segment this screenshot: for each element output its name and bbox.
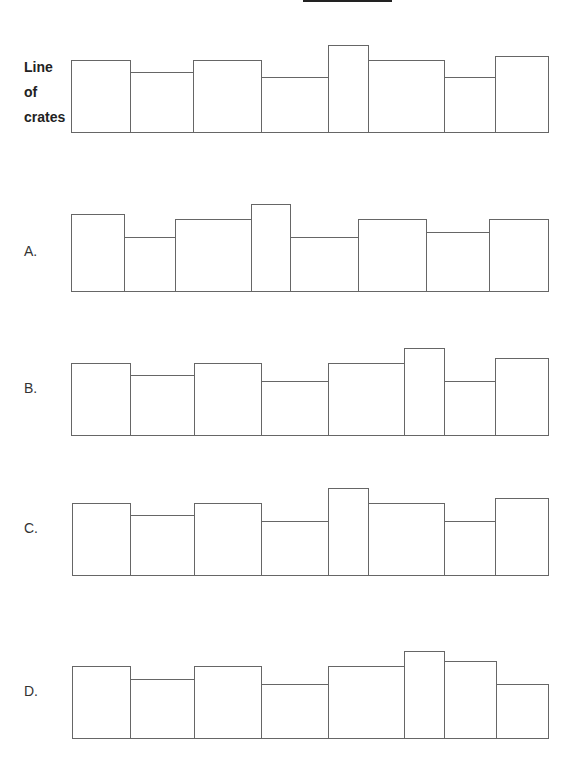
crate [328, 666, 405, 739]
crate [71, 60, 131, 133]
label-line-3: crates [24, 105, 65, 130]
crate [444, 381, 496, 436]
crate [495, 358, 549, 436]
crate [261, 521, 329, 576]
label-line-1: Line [24, 55, 65, 80]
crate [328, 45, 369, 133]
crate [444, 661, 497, 739]
crate [261, 77, 329, 133]
crate [328, 488, 369, 576]
crate [444, 77, 496, 133]
crate [426, 232, 490, 292]
crate [71, 363, 131, 436]
crate [124, 237, 176, 292]
crate [496, 684, 549, 739]
crate [130, 72, 194, 133]
crate [495, 56, 549, 133]
crate [175, 219, 252, 292]
crate [194, 503, 262, 576]
crate [72, 503, 131, 576]
crate [368, 503, 445, 576]
crate [358, 219, 427, 292]
crate [193, 60, 262, 133]
crate [72, 666, 131, 739]
option-c-label[interactable]: C. [24, 520, 38, 536]
crate [489, 219, 549, 292]
option-a-label[interactable]: A. [24, 243, 37, 259]
crate [444, 521, 496, 576]
crate [328, 363, 405, 436]
crate [251, 204, 291, 292]
option-d-label[interactable]: D. [24, 683, 38, 699]
crate [495, 498, 549, 576]
crate [130, 375, 195, 436]
crate [404, 651, 445, 739]
crate [194, 666, 262, 739]
crate [261, 684, 329, 739]
crate [194, 363, 262, 436]
crate [290, 237, 359, 292]
option-b-label[interactable]: B. [24, 380, 37, 396]
label-line-2: of [24, 80, 65, 105]
crate [130, 679, 195, 739]
crate [130, 515, 195, 576]
crate [71, 214, 125, 292]
crate [368, 60, 445, 133]
title-blank-line [303, 0, 392, 2]
line-of-crates-label: Line of crates [24, 55, 65, 130]
crate [261, 381, 329, 436]
crate [404, 348, 445, 436]
